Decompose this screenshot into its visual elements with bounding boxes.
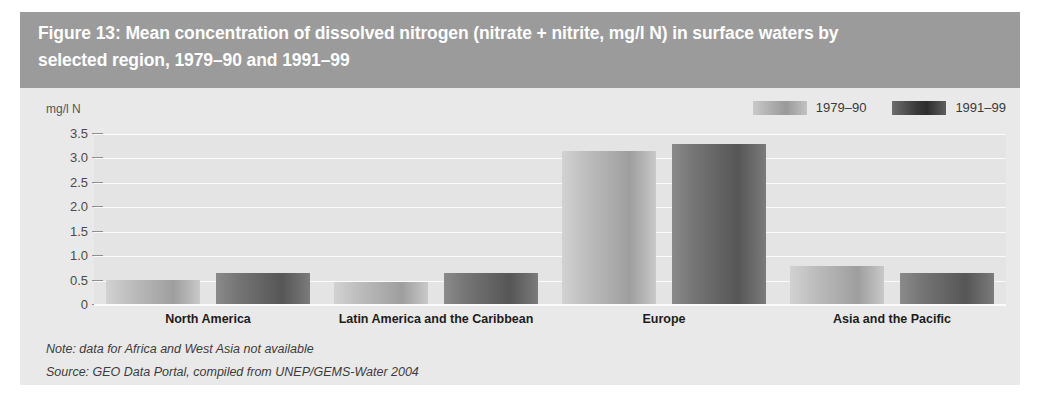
y-tick-label: 1.0 — [28, 248, 88, 263]
figure-note: Note: data for Africa and West Asia not … — [46, 338, 746, 361]
figure-title-band: Figure 13: Mean concentration of dissolv… — [20, 12, 1020, 88]
x-axis-category-labels: North AmericaLatin America and the Carib… — [94, 312, 1006, 332]
axis-baseline — [94, 304, 1006, 305]
figure-source: Source: GEO Data Portal, compiled from U… — [46, 361, 746, 384]
gridline — [94, 305, 1006, 306]
legend-label-1991-99: 1991–99 — [955, 100, 1006, 115]
legend-item-1979-90[interactable]: 1979–90 — [753, 100, 867, 115]
chart-legend: 1979–90 1991–99 — [753, 100, 1006, 115]
legend-swatch-icon-1979-90 — [753, 101, 807, 115]
y-tick-label: 0.5 — [28, 273, 88, 288]
y-axis-unit-label: mg/l N — [46, 102, 81, 116]
bar — [790, 266, 884, 305]
y-tick-label: 2.5 — [28, 175, 88, 190]
bar — [672, 144, 766, 305]
x-axis-category-label: Latin America and the Caribbean — [322, 312, 550, 326]
y-tick-label: 2.0 — [28, 199, 88, 214]
figure-panel: Figure 13: Mean concentration of dissolv… — [20, 12, 1020, 385]
plot-area: 00.51.01.52.02.53.03.5 — [94, 134, 1006, 305]
bar — [562, 151, 656, 305]
x-axis-category-label: Asia and the Pacific — [778, 312, 1006, 326]
chart-body: mg/l N 1979–90 1991–99 00.51.01.52.02.53… — [20, 88, 1020, 385]
y-tick-label: 3.5 — [28, 126, 88, 141]
bar — [216, 273, 310, 305]
legend-swatch-icon-1991-99 — [892, 101, 946, 115]
bar-series-group — [94, 134, 1006, 305]
x-axis-category-label: North America — [94, 312, 322, 326]
y-tick-label: 1.5 — [28, 224, 88, 239]
bar — [334, 282, 428, 305]
figure-notes: Note: data for Africa and West Asia not … — [46, 338, 746, 384]
figure-title: Figure 13: Mean concentration of dissolv… — [38, 20, 1000, 74]
legend-label-1979-90: 1979–90 — [816, 100, 867, 115]
bar — [444, 273, 538, 305]
legend-item-1991-99[interactable]: 1991–99 — [892, 100, 1006, 115]
bar — [900, 273, 994, 305]
x-axis-category-label: Europe — [550, 312, 778, 326]
y-tick-label: 3.0 — [28, 150, 88, 165]
y-tick-label: 0 — [28, 297, 88, 312]
bar — [106, 280, 200, 305]
